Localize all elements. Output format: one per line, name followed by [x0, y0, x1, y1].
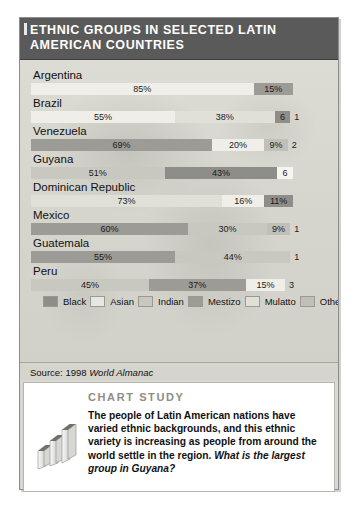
- legend-label: Mulatto: [265, 296, 296, 307]
- legend-label: Black: [63, 296, 86, 307]
- country-label: Mexico: [31, 208, 327, 222]
- bar-segment-other: 9%: [264, 139, 288, 151]
- chart-study-text: Chart Study The people of Latin American…: [86, 391, 326, 483]
- stacked-bar: 73%16%11%: [31, 195, 327, 207]
- bar-segment-mestizo: 15%: [254, 83, 293, 95]
- legend-label: Other: [320, 296, 338, 307]
- bar-segment-mestizo: 69%: [31, 139, 212, 151]
- bar-segment-european: 55%: [31, 111, 175, 123]
- bar-segment-mixed: 2: [288, 139, 301, 151]
- chart-row: Guatemala55%44%1: [31, 236, 327, 263]
- stacked-bar: 55%38%61: [31, 111, 327, 123]
- bar-segment-indian: 45%: [31, 279, 149, 291]
- legend-swatch-other: [300, 296, 315, 307]
- bar-segment-mixed: 1: [290, 251, 303, 263]
- chart-row: Venezuela69%20%9%2: [31, 124, 327, 151]
- chart-plot-area: Argentina85%15%Brazil55%38%61Venezuela69…: [20, 60, 338, 362]
- bar-segment-european: 85%: [31, 83, 254, 95]
- chart-row: Argentina85%15%: [31, 68, 327, 95]
- bar-segment-mestizo: 60%: [31, 223, 188, 235]
- legend-item-indian: Indian: [138, 296, 184, 307]
- bar-segment-mixed: 1: [290, 223, 303, 235]
- legend-swatch-indian: [138, 296, 153, 307]
- chart-source: Source: 1998 World Almanac: [20, 362, 338, 380]
- chart-legend: BlackAsianIndianMestizoMulattoOtherEurop…: [31, 296, 327, 307]
- country-label: Dominican Republic: [31, 180, 327, 194]
- chart-study-body: The people of Latin American nations hav…: [88, 409, 326, 475]
- bar-segment-other: 9%: [267, 223, 291, 235]
- stacked-bar: 60%30%9%1: [31, 223, 327, 235]
- bar-segment-black: 6: [275, 111, 291, 123]
- stacked-bar: 45%37%15%3: [31, 279, 327, 291]
- legend-item-black: Black: [43, 296, 86, 307]
- bar-segment-european: 15%: [246, 279, 285, 291]
- bar-segment-indian: 51%: [31, 167, 165, 179]
- legend-swatch-mestizo: [188, 296, 203, 307]
- legend-swatch-asian: [90, 296, 105, 307]
- bar-segment-mestizo: 55%: [31, 251, 175, 263]
- legend-item-mulatto: Mulatto: [245, 296, 296, 307]
- bar-chart-icon: [30, 391, 86, 483]
- country-label: Venezuela: [31, 124, 327, 138]
- chart-row: Brazil55%38%61: [31, 96, 327, 123]
- country-label: Peru: [31, 264, 327, 278]
- stacked-bar: 55%44%1: [31, 251, 327, 263]
- chart-study-box: Chart Study The people of Latin American…: [23, 382, 335, 492]
- country-label: Brazil: [31, 96, 327, 110]
- legend-item-asian: Asian: [90, 296, 134, 307]
- stacked-bar: 85%15%: [31, 83, 327, 95]
- country-label: Guyana: [31, 152, 327, 166]
- title-accent-bar: [24, 23, 27, 35]
- bar-segment-european: 20%: [212, 139, 264, 151]
- stacked-bar: 51%43%6: [31, 167, 327, 179]
- legend-item-mestizo: Mestizo: [188, 296, 241, 307]
- chart-figure: Ethnic Groups in Selected Latin American…: [19, 17, 339, 490]
- bar-segment-european: 16%: [222, 195, 264, 207]
- country-label: Guatemala: [31, 236, 327, 250]
- country-label: Argentina: [31, 68, 327, 82]
- legend-swatch-black: [43, 296, 58, 307]
- page-title: Ethnic Groups in Selected Latin American…: [30, 23, 338, 53]
- chart-row: Peru45%37%15%3: [31, 264, 327, 291]
- chart-title-banner: Ethnic Groups in Selected Latin American…: [20, 18, 338, 60]
- bar-segment-mixed: 6: [277, 167, 293, 179]
- stacked-bar: 69%20%9%2: [31, 139, 327, 151]
- bar-segment-indian: 44%: [175, 251, 290, 263]
- legend-label: Indian: [158, 296, 184, 307]
- bar-segment-indian: 30%: [188, 223, 267, 235]
- legend-label: Mestizo: [208, 296, 241, 307]
- legend-swatch-mulatto: [245, 296, 260, 307]
- bar-segment-mestizo: 37%: [149, 279, 246, 291]
- chart-row: Guyana51%43%6: [31, 152, 327, 179]
- bar-segment-mixed: 3: [285, 279, 298, 291]
- bar-segment-mulatto: 73%: [31, 195, 222, 207]
- chart-row: Dominican Republic73%16%11%: [31, 180, 327, 207]
- bar-segment-mulatto: 38%: [175, 111, 275, 123]
- chart-row: Mexico60%30%9%1: [31, 208, 327, 235]
- source-title: World Almanac: [89, 367, 153, 378]
- chart-study-heading: Chart Study: [88, 391, 326, 403]
- legend-label: Asian: [110, 296, 134, 307]
- legend-item-other: Other: [300, 296, 338, 307]
- bar-segment-black: 43%: [165, 167, 278, 179]
- bar-segment-mixed: 1: [290, 111, 303, 123]
- chart-rows: Argentina85%15%Brazil55%38%61Venezuela69…: [31, 68, 327, 291]
- source-prefix: Source: 1998: [30, 367, 89, 378]
- bar-segment-black: 11%: [264, 195, 293, 207]
